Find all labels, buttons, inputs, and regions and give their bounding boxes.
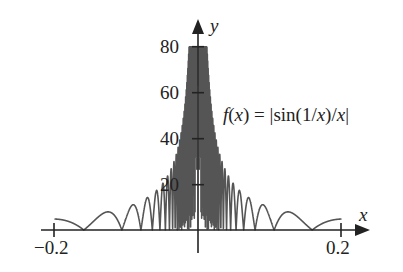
y-tick-label-60: 60	[160, 82, 179, 103]
y-tick-label-20: 20	[160, 174, 179, 195]
function-plot: −0.2 0.2 80 60 40 20 y x f(x) = |sin(1/x…	[0, 0, 403, 272]
x-tick-label-neg: −0.2	[34, 237, 68, 258]
function-formula-annotation: f(x) = |sin(1/x)/x|	[223, 104, 349, 126]
x-tick-label-pos: 0.2	[326, 237, 350, 258]
y-axis-label: y	[208, 15, 219, 36]
x-axis-label: x	[358, 204, 368, 225]
y-tick-label-40: 40	[160, 128, 179, 149]
x-axis-arrow-icon	[355, 224, 370, 236]
y-tick-label-80: 80	[160, 36, 179, 57]
y-axis-arrow-icon	[192, 19, 204, 34]
